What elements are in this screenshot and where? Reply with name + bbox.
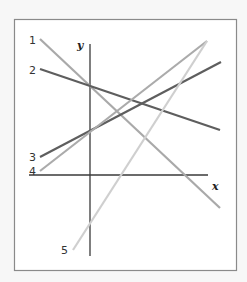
line-4-label: 4 — [29, 165, 36, 178]
line-3-label: 3 — [29, 151, 36, 164]
line-2-label: 2 — [29, 64, 36, 77]
line-diagram: y x 1 2 3 4 5 — [0, 0, 247, 282]
line-5-label: 5 — [61, 244, 68, 257]
x-axis-label: x — [211, 180, 219, 193]
line-1-label: 1 — [29, 34, 36, 47]
diagram-frame — [15, 20, 237, 271]
